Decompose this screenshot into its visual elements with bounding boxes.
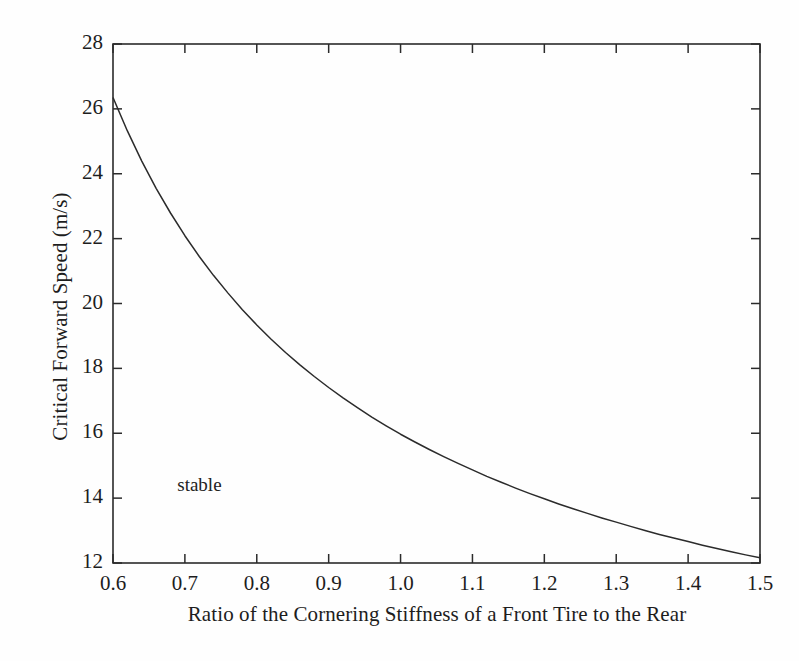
x-tick-label: 0.9 bbox=[299, 571, 359, 596]
x-tick-label: 1.3 bbox=[586, 571, 646, 596]
x-tick-label: 1.0 bbox=[371, 571, 431, 596]
x-tick-label: 1.5 bbox=[730, 571, 790, 596]
x-tick-label: 1.4 bbox=[658, 571, 718, 596]
y-tick-label: 14 bbox=[57, 484, 103, 509]
y-tick-label: 24 bbox=[57, 160, 103, 185]
y-tick-label: 16 bbox=[57, 419, 103, 444]
y-tick-label: 20 bbox=[57, 290, 103, 315]
x-tick-label: 1.2 bbox=[514, 571, 574, 596]
plot-area bbox=[0, 0, 799, 661]
x-tick-label: 0.7 bbox=[155, 571, 215, 596]
y-tick-label: 22 bbox=[57, 225, 103, 250]
annotation-stable-region-label: stable bbox=[177, 474, 221, 496]
x-tick-label: 1.1 bbox=[442, 571, 502, 596]
y-tick-label: 18 bbox=[57, 354, 103, 379]
x-tick-label: 0.8 bbox=[227, 571, 287, 596]
y-tick-label: 28 bbox=[57, 30, 103, 55]
figure-canvas: Critical Forward Speed (m/s) Ratio of th… bbox=[0, 0, 799, 661]
y-tick-label: 26 bbox=[57, 95, 103, 120]
x-tick-label: 0.6 bbox=[83, 571, 143, 596]
